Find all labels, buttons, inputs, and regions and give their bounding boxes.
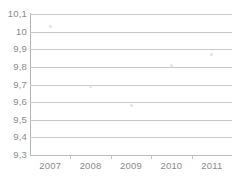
gridline	[30, 137, 232, 138]
data-point	[210, 53, 213, 56]
y-axis-tick-label: 10	[1, 27, 27, 37]
gridline	[30, 67, 232, 68]
plot-area	[30, 14, 232, 155]
x-axis-tick-labels: 20072008200920102011	[30, 160, 232, 176]
x-axis-tick-mark	[192, 155, 193, 159]
y-axis-tick-label: 9,7	[1, 80, 27, 90]
gridline	[30, 32, 232, 33]
y-axis-tick-label: 9,3	[1, 150, 27, 160]
y-axis-tick-labels: 9,39,49,59,69,79,89,91010,1	[0, 14, 27, 155]
data-point	[89, 85, 92, 88]
x-axis-tick-label: 2011	[190, 160, 234, 172]
gridline	[30, 155, 232, 156]
x-axis-tick-mark	[151, 155, 152, 159]
x-axis-tick-mark	[111, 155, 112, 159]
x-axis-tick-label: 2008	[69, 160, 113, 172]
gridline	[30, 85, 232, 86]
gridline	[30, 14, 232, 15]
data-point	[130, 104, 133, 107]
gridline	[30, 120, 232, 121]
y-axis-tick-label: 9,6	[1, 97, 27, 107]
y-axis-tick-label: 10,1	[1, 9, 27, 19]
y-axis-tick-label: 9,9	[1, 44, 27, 54]
data-point	[170, 64, 173, 67]
gridline	[30, 49, 232, 50]
x-axis-tick-label: 2007	[28, 160, 72, 172]
y-axis-tick-label: 9,8	[1, 62, 27, 72]
chart-container: 9,39,49,59,69,79,89,91010,1 200720082009…	[0, 0, 246, 184]
y-axis-tick-label: 9,5	[1, 115, 27, 125]
x-axis-tick-label: 2009	[109, 160, 153, 172]
data-point	[49, 25, 52, 28]
gridline	[30, 102, 232, 103]
x-axis-tick-label: 2010	[149, 160, 193, 172]
y-axis-tick-label: 9,4	[1, 132, 27, 142]
x-axis-tick-mark	[70, 155, 71, 159]
